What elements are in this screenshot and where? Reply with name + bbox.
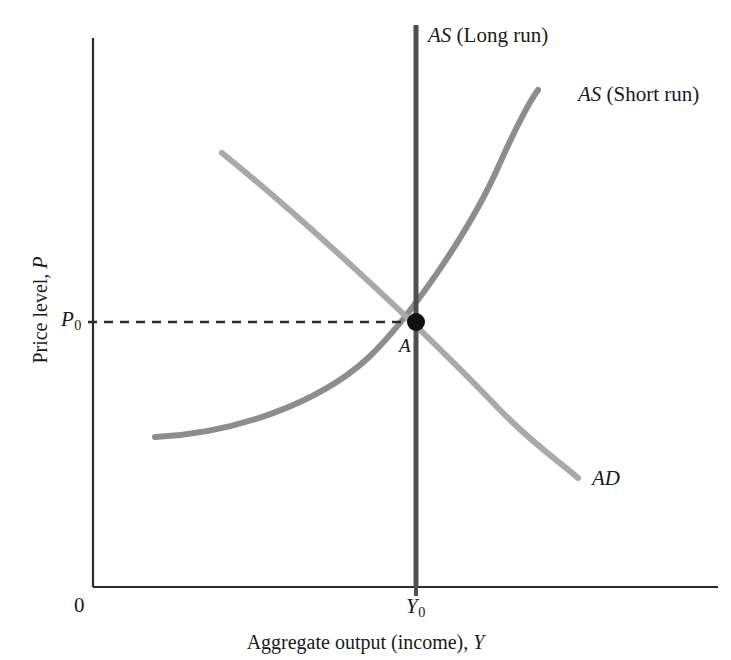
y-axis-title: Price level, P [30, 210, 50, 410]
ad-label: AD [592, 468, 620, 489]
x-axis-title-text: Aggregate output (income), [247, 631, 474, 653]
y-axis-title-text: Price level, [29, 269, 51, 364]
ad-curve [222, 153, 578, 478]
as-short-run-label: AS (Short run) [578, 84, 699, 105]
y0-var: Y [406, 594, 418, 618]
y0-subscript: 0 [418, 604, 426, 620]
y-axis-tick-label-p0: P0 [61, 309, 81, 333]
equilibrium-point-label-text: A [399, 335, 411, 356]
origin-label-text: 0 [74, 593, 85, 617]
equilibrium-point-label: A [399, 336, 411, 355]
x-axis-title: Aggregate output (income), Y [0, 632, 731, 652]
p0-var: P [61, 307, 74, 331]
x-axis-tick-label-y0: Y0 [406, 596, 425, 620]
p0-subscript: 0 [74, 317, 82, 333]
as-short-run-label-var: AS [578, 82, 601, 106]
as-long-run-label: AS (Long run) [428, 25, 548, 46]
origin-label: 0 [74, 595, 85, 616]
as-long-run-label-var: AS [428, 23, 451, 47]
as-short-run-label-rest: (Short run) [601, 82, 699, 106]
ad-label-var: AD [592, 466, 620, 490]
equilibrium-point-dot [407, 313, 425, 331]
as-ad-figure: AS (Long run) AS (Short run) AD A P0 Y0 … [0, 0, 731, 660]
as-long-run-label-rest: (Long run) [451, 23, 548, 47]
x-axis-title-var: Y [473, 631, 484, 653]
y-axis-title-var: P [29, 256, 51, 268]
